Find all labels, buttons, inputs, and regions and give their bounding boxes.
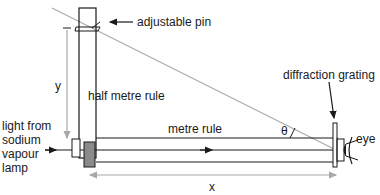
- diffraction-grating: [333, 123, 337, 167]
- label-light-source-line2: sodium: [2, 133, 41, 147]
- label-metre-rule: metre rule: [168, 122, 222, 136]
- label-theta: θ: [281, 124, 288, 138]
- label-half-metre-rule: half metre rule: [88, 89, 165, 103]
- grating-pointer-arrow: [329, 82, 334, 118]
- grating-holder: [337, 139, 344, 161]
- label-light-source-line1: light from: [2, 119, 51, 133]
- label-adjustable-pin: adjustable pin: [137, 15, 211, 29]
- label-x: x: [209, 180, 215, 194]
- theta-arc-mark: [290, 128, 295, 138]
- diffraction-experiment-diagram: adjustable pin half metre rule diffracti…: [0, 0, 380, 195]
- rule-support-block: [84, 142, 95, 167]
- label-light-source-line4: lamp: [2, 161, 28, 175]
- label-eye: eye: [356, 132, 376, 146]
- label-light-source-line3: vapour: [2, 147, 39, 161]
- slit-holder: [72, 139, 80, 157]
- label-y: y: [55, 79, 61, 93]
- label-diffraction-grating: diffraction grating: [283, 68, 375, 82]
